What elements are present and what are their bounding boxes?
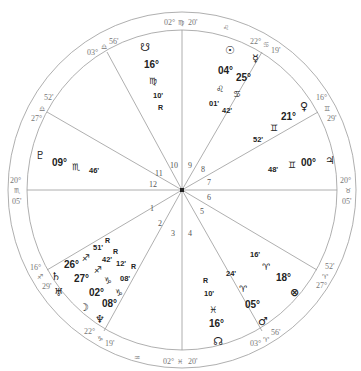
uranus-icon: ♅ [54, 286, 64, 299]
moon-degree: 02° [89, 287, 104, 298]
south-node-minutes: 10' [153, 91, 163, 100]
moon-sign: ♑ [104, 276, 112, 286]
cusp-9-sign: ♋ [263, 41, 269, 49]
house-number-3: 3 [171, 229, 175, 238]
neptune-sign: ♑ [115, 288, 123, 298]
cusp-12-degree: 27° [31, 114, 42, 123]
south-node-degree: 16° [144, 59, 159, 70]
natal-chart-wheel: 1 2 3 4 5 6 7 8 9 10 11 12 20° ♏ 05' 16°… [0, 0, 361, 371]
jupiter-sign: ♊ [288, 160, 296, 170]
venus-icon: ♀ [300, 100, 308, 113]
mars-degree: 05° [245, 299, 260, 310]
cusp-line-12 [47, 112, 182, 190]
cusp-9-minutes: 19' [271, 46, 281, 55]
mercury-minutes: 42' [222, 106, 232, 115]
cusp-9-degree: 22° [250, 37, 261, 46]
cusp-8-degree: 16° [316, 93, 327, 102]
jupiter-icon: ♃ [325, 154, 335, 167]
house-number-6: 6 [207, 193, 211, 202]
cusp-line-8 [182, 112, 318, 190]
uranus-sign: ♐ [94, 265, 102, 275]
planet-jupiter: ♃ 00° ♊ 48' [268, 154, 335, 174]
cusp-1-minutes: 05' [12, 197, 22, 206]
mercury-icon: ☿ [252, 52, 259, 65]
moon-icon: ☽ [79, 301, 89, 314]
cusp-7-sign: ♉ [345, 187, 351, 195]
planet-south-node: ☋ 16° ♍ 10' R [140, 41, 163, 111]
uranus-retrograde: R [113, 248, 118, 255]
neptune-degree: 08° [102, 298, 117, 309]
uranus-degree: 27° [74, 273, 89, 284]
planet-neptune: ♆ 08° ♑ 08' [95, 274, 130, 326]
cusp-11-degree: 03° [87, 48, 98, 57]
sun-icon: ☉ [225, 44, 235, 57]
mercury-degree: 25° [236, 72, 251, 83]
south-node-retrograde: R [158, 104, 163, 111]
moon-minutes: 12' [116, 259, 126, 268]
mars-sign: ♈ [239, 284, 247, 294]
intercepted-sign-aquarius: ♒ [134, 354, 140, 362]
saturn-degree: 26° [64, 259, 79, 270]
cusp-7-minutes: 05' [342, 197, 352, 206]
cusp-12-minutes: 52' [44, 93, 54, 102]
planet-north-node: ☊ 16° ♓ 10' R [203, 277, 224, 348]
cusp-1-degree: 20° [10, 176, 21, 185]
mars-icon: ♂ [258, 315, 268, 328]
sun-minutes: 01' [209, 99, 219, 108]
venus-sign: ♊ [270, 123, 278, 133]
cusp-2-minutes: 29' [42, 282, 52, 291]
sun-degree: 04° [218, 65, 233, 76]
house-number-12: 12 [149, 180, 157, 189]
house-number-4: 4 [188, 229, 192, 238]
cusp-6-sign: ♈ [322, 273, 328, 281]
cusp-8-minutes: 29' [327, 114, 337, 123]
part-of-fortune-icon: ⊗ [290, 286, 299, 299]
house-number-5: 5 [200, 207, 204, 216]
cusp-3-sign: ♑ [97, 335, 103, 343]
cusp-3-minutes: 19' [105, 339, 115, 348]
cusp-1-sign: ♏ [14, 187, 21, 195]
north-node-icon: ☊ [213, 335, 223, 348]
cusp-5-degree: 03° [250, 339, 261, 348]
cusp-6-degree: 27° [316, 281, 327, 290]
planet-mercury: ☿ 25° ♋ 42' [222, 52, 259, 115]
cusp-10-degree: 02° [164, 18, 175, 27]
cusp-5-sign: ♈ [263, 336, 269, 344]
neptune-icon: ♆ [95, 313, 105, 326]
house-number-8: 8 [201, 165, 205, 174]
planet-mars: ♂ 05° ♈ 24' [226, 269, 268, 328]
part-of-fortune-sign: ♈ [262, 262, 270, 272]
cusp-2-degree: 16° [30, 263, 41, 272]
mercury-sign: ♋ [233, 89, 241, 99]
sun-sign: ♌ [216, 84, 224, 94]
mars-minutes: 24' [226, 269, 236, 278]
cusp-11-sign: ♎ [101, 43, 107, 51]
cusp-12-sign: ♎ [39, 105, 45, 113]
house-number-1: 1 [150, 204, 154, 213]
north-node-sign: ♓ [209, 305, 217, 315]
cusp-10-minutes: 20' [188, 18, 198, 27]
planet-part-of-fortune: ⊗ 18° ♈ 16' [250, 250, 299, 299]
cusp-line-2 [47, 190, 182, 270]
planet-sun: ☉ 04° ♌ 01' [209, 44, 235, 108]
cusp-4-degree: 02° [163, 357, 174, 366]
house-number-7: 7 [207, 178, 211, 187]
center-point [180, 188, 184, 192]
saturn-retrograde: R [105, 237, 110, 244]
north-node-retrograde: R [203, 277, 208, 284]
cusp-5-minutes: 56' [271, 328, 281, 337]
venus-degree: 21° [281, 111, 296, 122]
part-of-fortune-degree: 18° [276, 272, 291, 283]
house-numbers: 1 2 3 4 5 6 7 8 9 10 11 12 [149, 161, 211, 238]
cusp-2-sign: ♐ [37, 273, 43, 281]
pluto-sign: ♏ [72, 162, 80, 172]
cusp-11-minutes: 56' [109, 37, 119, 46]
cusp-8-sign: ♊ [324, 105, 330, 113]
house-number-10: 10 [170, 161, 178, 170]
neptune-minutes: 08' [120, 274, 130, 283]
north-node-degree: 16° [209, 318, 224, 329]
uranus-minutes: 42' [102, 255, 112, 264]
pluto-degree: 09° [52, 157, 67, 168]
north-node-minutes: 10' [204, 289, 214, 298]
house-number-11: 11 [155, 169, 163, 178]
